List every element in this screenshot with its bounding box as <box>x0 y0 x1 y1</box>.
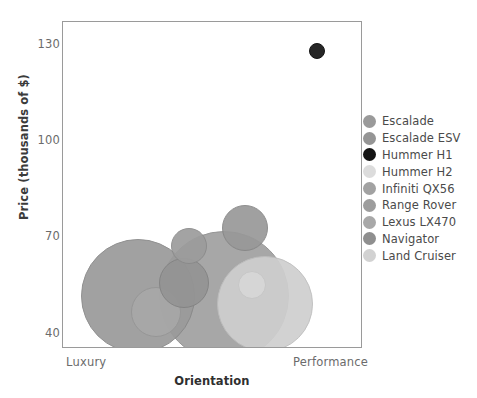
bubble-hummer-h2 <box>238 271 266 299</box>
legend-item-escalade[interactable]: Escalade <box>363 113 477 130</box>
legend-item-label: Lexus LX470 <box>382 215 456 229</box>
legend-item-land-cruiser[interactable]: Land Cruiser <box>363 247 477 264</box>
bubble-land-cruiser <box>217 256 313 347</box>
y-tick-label-130: 130 <box>14 37 60 51</box>
legend-item-label: Hummer H1 <box>382 148 453 162</box>
bubble-infiniti-qx56 <box>171 228 207 264</box>
legend-item-label: Land Cruiser <box>382 249 456 263</box>
legend-item-infiniti-qx56[interactable]: Infiniti QX56 <box>363 180 477 197</box>
y-axis: 130 100 70 40 <box>8 0 60 398</box>
bubble-hummer-h1 <box>309 43 325 59</box>
legend-item-label: Hummer H2 <box>382 165 453 179</box>
x-tick-label-performance: Performance <box>293 355 368 369</box>
bubble-chart: 130 100 70 40 Price (thousands of $) Lux… <box>0 0 477 398</box>
x-tick-label-luxury: Luxury <box>66 355 106 369</box>
legend-swatch-icon <box>363 165 376 178</box>
legend-item-label: Escalade <box>382 114 434 128</box>
bubble-range-rover <box>222 205 268 251</box>
legend-item-hummer-h1[interactable]: Hummer H1 <box>363 147 477 164</box>
y-tick-label-40: 40 <box>14 326 60 340</box>
plot-canvas <box>63 22 361 347</box>
y-axis-title: Price (thousands of $) <box>17 67 31 227</box>
legend-item-range-rover[interactable]: Range Rover <box>363 197 477 214</box>
legend-item-label: Infiniti QX56 <box>382 182 455 196</box>
legend-item-label: Escalade ESV <box>382 131 461 145</box>
legend-swatch-icon <box>363 199 376 212</box>
legend-swatch-icon <box>363 115 376 128</box>
legend-item-navigator[interactable]: Navigator <box>363 231 477 248</box>
x-axis-title: Orientation <box>62 374 362 388</box>
legend-item-label: Navigator <box>382 232 439 246</box>
legend-swatch-icon <box>363 216 376 229</box>
legend: EscaladeEscalade ESVHummer H1Hummer H2In… <box>363 113 477 264</box>
legend-swatch-icon <box>363 148 376 161</box>
plot-area <box>62 21 362 348</box>
legend-item-hummer-h2[interactable]: Hummer H2 <box>363 163 477 180</box>
legend-item-lexus-lx470[interactable]: Lexus LX470 <box>363 214 477 231</box>
legend-swatch-icon <box>363 132 376 145</box>
bubble-navigator <box>159 258 209 308</box>
y-tick-label-70: 70 <box>14 229 60 243</box>
legend-swatch-icon <box>363 232 376 245</box>
legend-item-escalade-esv[interactable]: Escalade ESV <box>363 130 477 147</box>
legend-swatch-icon <box>363 182 376 195</box>
legend-item-label: Range Rover <box>382 198 456 212</box>
legend-swatch-icon <box>363 249 376 262</box>
